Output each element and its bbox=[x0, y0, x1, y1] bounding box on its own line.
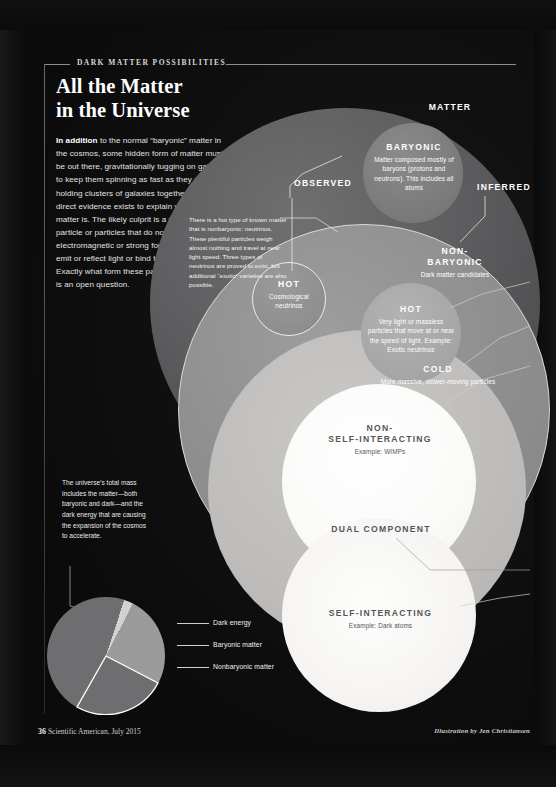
legend-item-dark-energy: Dark energy bbox=[173, 619, 323, 641]
label-baryonic-text: BARYONIC bbox=[368, 142, 460, 153]
label-cold: COLD More massive, slower-moving particl… bbox=[363, 364, 513, 386]
label-self-interacting-text: SELF-INTERACTING bbox=[318, 608, 443, 619]
label-hot-exotic-text: HOT bbox=[366, 304, 456, 315]
label-observed-text: OBSERVED bbox=[263, 178, 383, 189]
label-nonbaryonic-line-2: BARYONIC bbox=[390, 257, 520, 268]
legend-label-baryonic-matter: Baryonic matter bbox=[213, 641, 262, 648]
label-hot-observed-desc: Cosmological neutrinos bbox=[255, 292, 323, 311]
footer-credit: Illustration by Jen Christiansen bbox=[434, 727, 530, 734]
label-observed: OBSERVED bbox=[263, 178, 383, 189]
pie-exploded-wedge-outline bbox=[47, 597, 165, 715]
label-non-self-interacting: NON- SELF-INTERACTING Example: WIMPs bbox=[320, 423, 440, 456]
label-non-self-interacting-line-2: SELF-INTERACTING bbox=[320, 434, 440, 445]
label-cold-text: COLD bbox=[363, 364, 513, 375]
label-self-interacting: SELF-INTERACTING Example: Dark atoms bbox=[318, 608, 443, 630]
annotation-total-mass: The universe’s total mass includes the m… bbox=[62, 478, 148, 542]
legend-label-dark-energy: Dark energy bbox=[213, 619, 251, 626]
label-dual-component-text: DUAL COMPONENT bbox=[315, 524, 447, 535]
label-non-self-interacting-desc: Example: WIMPs bbox=[320, 447, 440, 456]
label-non-self-interacting-line-1: NON- bbox=[320, 423, 440, 434]
page-edge-bottom bbox=[0, 745, 556, 787]
page-edge-left bbox=[0, 0, 26, 787]
page-edge-top bbox=[0, 0, 556, 30]
mass-energy-pie-chart: Dark energy Baryonic matter Nonbaryonic … bbox=[47, 597, 177, 727]
legend-leader-line-icon bbox=[177, 667, 209, 668]
label-nonbaryonic: NON- BARYONIC Dark matter candidates bbox=[390, 246, 520, 279]
legend-label-nonbaryonic-matter: Nonbaryonic matter bbox=[213, 663, 274, 670]
label-inferred-text: INFERRED bbox=[454, 182, 554, 193]
label-hot-exotic-desc: Very light or massless particles that mo… bbox=[366, 317, 456, 354]
legend-item-nonbaryonic-matter: Nonbaryonic matter bbox=[173, 663, 323, 685]
footer-page-number: 36 bbox=[38, 727, 46, 736]
legend-leader-line-icon bbox=[177, 623, 209, 624]
label-cold-desc: More massive, slower-moving particles bbox=[363, 377, 513, 386]
annotation-neutrinos: There is a hot type of known matter that… bbox=[189, 215, 287, 289]
label-nonbaryonic-desc: Dark matter candidates bbox=[390, 270, 520, 279]
infographic-page: DARK MATTER POSSIBILITIES All the Matter… bbox=[0, 0, 556, 787]
label-nonbaryonic-line-1: NON- bbox=[390, 246, 520, 257]
label-hot-exotic: HOT Very light or massless particles tha… bbox=[366, 304, 456, 354]
label-inferred: INFERRED bbox=[454, 182, 554, 193]
label-matter-text: MATTER bbox=[390, 102, 510, 113]
footer-publication-line: 36 Scientific American, July 2015 bbox=[38, 727, 141, 736]
pie-legend: Dark energy Baryonic matter Nonbaryonic … bbox=[173, 619, 323, 685]
footer-publication-text: Scientific American, July 2015 bbox=[48, 727, 141, 736]
label-matter: MATTER bbox=[390, 102, 510, 113]
legend-leader-line-icon bbox=[177, 645, 209, 646]
label-dual-component: DUAL COMPONENT bbox=[315, 524, 447, 535]
legend-item-baryonic-matter: Baryonic matter bbox=[173, 641, 323, 663]
matter-venn-diagram: MATTER BARYONIC Matter composed mostly o… bbox=[30, 46, 530, 726]
content-frame: DARK MATTER POSSIBILITIES All the Matter… bbox=[30, 46, 530, 726]
label-self-interacting-desc: Example: Dark atoms bbox=[318, 621, 443, 630]
